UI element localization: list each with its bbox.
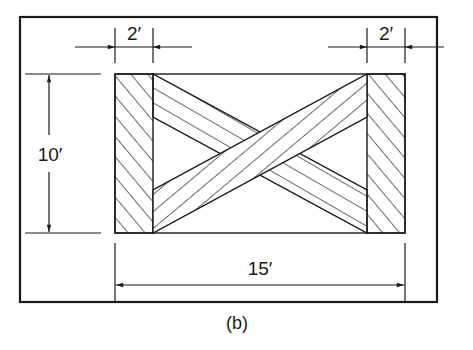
truss-diagram: 2′ 2′ 10′ 15′ (b) bbox=[0, 0, 473, 350]
dim-label-left-bar: 2′ bbox=[127, 23, 142, 44]
dim-length: 15′ bbox=[115, 243, 405, 302]
dim-label-height: 10′ bbox=[38, 144, 63, 165]
dim-label-length: 15′ bbox=[248, 258, 273, 279]
dim-height: 10′ bbox=[25, 74, 101, 233]
dim-label-right-bar: 2′ bbox=[379, 23, 394, 44]
left-post bbox=[115, 74, 153, 233]
dim-right-bar-width: 2′ bbox=[328, 23, 444, 63]
figure-caption: (b) bbox=[226, 313, 248, 333]
right-post bbox=[367, 74, 405, 233]
dim-left-bar-width: 2′ bbox=[75, 23, 192, 63]
